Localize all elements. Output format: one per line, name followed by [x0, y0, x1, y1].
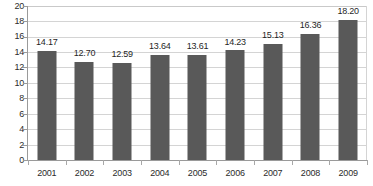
- bar-value-label: 18.20: [337, 7, 359, 16]
- bar-value-label: 13.61: [187, 42, 209, 51]
- bar-group[interactable]: 12.59: [103, 6, 141, 160]
- bar-group[interactable]: 16.36: [292, 6, 330, 160]
- x-tick-mark: [216, 160, 217, 165]
- y-tick-label: 16: [0, 32, 24, 41]
- x-tick-label: 2008: [292, 168, 330, 178]
- bar[interactable]: [37, 51, 56, 160]
- x-tick-mark: [367, 160, 368, 165]
- y-tick-label: 18: [0, 17, 24, 26]
- bar-group[interactable]: 13.61: [179, 6, 217, 160]
- x-tick-label: 2009: [329, 168, 367, 178]
- x-tick-label: 2001: [28, 168, 66, 178]
- bar-value-label: 12.70: [74, 49, 96, 58]
- bar-value-label: 16.36: [300, 21, 322, 30]
- bars-layer: 14.17 12.70 12.59 13.64 13.61 14.23 15.1…: [28, 6, 367, 160]
- x-tick-mark: [103, 160, 104, 165]
- x-tick-label: 2007: [254, 168, 292, 178]
- x-tick-label: 2004: [141, 168, 179, 178]
- bar[interactable]: [263, 44, 282, 161]
- bar-group[interactable]: 14.17: [28, 6, 66, 160]
- bar-value-label: 13.64: [149, 42, 171, 51]
- bar-group[interactable]: 13.64: [141, 6, 179, 160]
- bar[interactable]: [150, 55, 169, 160]
- x-axis-tick-labels: 2001 2002 2003 2004 2005 2006 2007 2008 …: [28, 168, 367, 182]
- x-tick-label: 2002: [66, 168, 104, 178]
- y-tick-label: 2: [0, 141, 24, 150]
- bar[interactable]: [226, 50, 245, 160]
- y-tick-label: 8: [0, 94, 24, 103]
- y-tick-label: 10: [0, 79, 24, 88]
- x-tick-mark: [292, 160, 293, 165]
- bar-group[interactable]: 15.13: [254, 6, 292, 160]
- x-tick-mark: [141, 160, 142, 165]
- x-tick-label: 2003: [103, 168, 141, 178]
- y-tick-label: 14: [0, 48, 24, 57]
- bar[interactable]: [188, 55, 207, 160]
- y-axis-tick-labels: 20 18 16 14 12 10 8 6 4 2 0: [0, 0, 24, 160]
- x-tick-mark: [28, 160, 29, 165]
- bar-group[interactable]: 12.70: [66, 6, 104, 160]
- bar[interactable]: [301, 34, 320, 160]
- x-tick-label: 2005: [179, 168, 217, 178]
- x-tick-label: 2006: [216, 168, 254, 178]
- y-tick-label: 0: [0, 156, 24, 165]
- y-tick-label: 20: [0, 2, 24, 11]
- bar-value-label: 15.13: [262, 31, 284, 40]
- bar-chart: 20 18 16 14 12 10 8 6 4 2 0 1: [0, 0, 373, 186]
- x-tick-mark: [329, 160, 330, 165]
- bar[interactable]: [75, 62, 94, 160]
- bar[interactable]: [339, 20, 358, 160]
- bar-group[interactable]: 14.23: [216, 6, 254, 160]
- x-axis-line: [27, 160, 367, 161]
- x-tick-mark: [66, 160, 67, 165]
- bar[interactable]: [113, 63, 132, 160]
- bar-value-label: 12.59: [111, 50, 133, 59]
- y-tick-label: 4: [0, 125, 24, 134]
- x-tick-mark: [179, 160, 180, 165]
- x-tick-mark: [254, 160, 255, 165]
- bar-group[interactable]: 18.20: [329, 6, 367, 160]
- bar-value-label: 14.17: [36, 38, 58, 47]
- bar-value-label: 14.23: [224, 38, 246, 47]
- y-tick-label: 12: [0, 63, 24, 72]
- y-tick-label: 6: [0, 110, 24, 119]
